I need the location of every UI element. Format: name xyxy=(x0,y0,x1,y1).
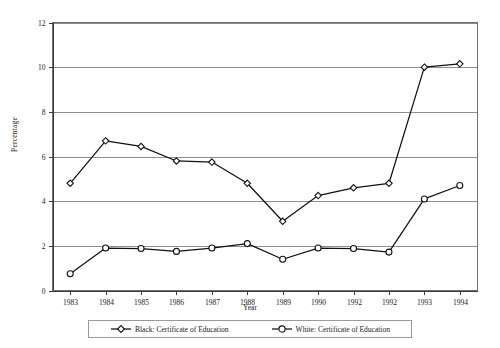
data-point xyxy=(351,246,357,252)
data-point xyxy=(173,158,179,164)
data-point xyxy=(138,246,144,252)
y-tick-label: 12 xyxy=(38,19,46,28)
y-tick-label: 4 xyxy=(42,197,46,206)
y-tick-labels: 024681012 xyxy=(38,19,46,296)
data-point xyxy=(350,185,356,191)
data-point xyxy=(103,245,109,251)
data-point xyxy=(386,249,392,255)
legend-label-black: Black: Certificate of Education xyxy=(135,325,229,334)
data-point xyxy=(421,196,427,202)
y-tick-label: 8 xyxy=(42,108,46,117)
data-point xyxy=(67,271,73,277)
data-point xyxy=(421,64,427,70)
data-point xyxy=(138,143,144,149)
data-point xyxy=(244,241,250,247)
data-point xyxy=(457,183,463,189)
data-point xyxy=(315,245,321,251)
data-point xyxy=(209,159,215,165)
legend-label-white: White: Certificate of Education xyxy=(296,325,390,334)
gridlines xyxy=(53,23,478,292)
legend-item-black: Black: Certificate of Education xyxy=(110,324,229,334)
legend-item-white: White: Certificate of Education xyxy=(271,324,390,334)
y-tick-label: 10 xyxy=(38,63,46,72)
data-point xyxy=(457,61,463,67)
y-tick-label: 2 xyxy=(42,242,46,251)
circle-marker-icon xyxy=(271,324,293,334)
data-point xyxy=(209,245,215,251)
y-tick-label: 6 xyxy=(42,153,46,162)
data-point xyxy=(173,248,179,254)
chart-container: Percentage 024681012 1983198419851986198… xyxy=(0,0,500,348)
chart-legend: Black: Certificate of Education White: C… xyxy=(88,320,412,338)
x-axis-title: Year xyxy=(0,303,500,312)
data-point xyxy=(386,180,392,186)
plot-frame xyxy=(53,23,478,291)
series-layer xyxy=(67,61,463,277)
plot-area: 024681012 198319841985198619871988198919… xyxy=(0,0,500,348)
diamond-marker-icon xyxy=(110,324,132,334)
series-line-black xyxy=(70,64,460,221)
data-point xyxy=(280,256,286,262)
series-line-white xyxy=(70,186,460,274)
y-tick-label: 0 xyxy=(42,287,46,296)
y-axis-ticks xyxy=(49,24,53,292)
